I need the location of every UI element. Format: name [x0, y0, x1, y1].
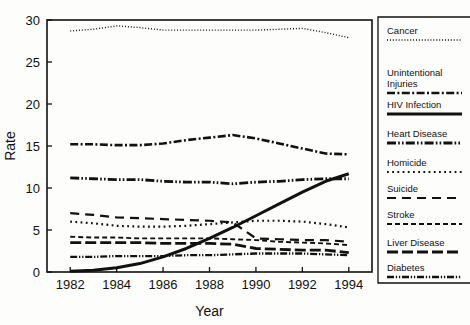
- line-chart-figure: 0510152025301982198419861988199019921994…: [0, 0, 470, 325]
- x-axis-title: Year: [195, 303, 224, 319]
- chart-legend: CancerUnintentionalInjuriesHIV Infection…: [378, 17, 470, 283]
- legend-entry-homicide[interactable]: Homicide: [387, 157, 462, 172]
- series-line-liver-disease: [70, 243, 349, 253]
- x-tick-label: 1994: [334, 277, 363, 292]
- series-line-heart-disease: [70, 178, 349, 184]
- series-line-unintentional-injuries: [70, 135, 349, 154]
- y-axis-title: Rate: [2, 131, 18, 161]
- y-tick-label: 15: [26, 139, 40, 154]
- legend-label: Liver Disease: [387, 237, 445, 248]
- plot-area: [70, 26, 349, 271]
- legend-label: Suicide: [387, 183, 418, 194]
- axes: 0510152025301982198419861988199019921994…: [2, 13, 372, 319]
- x-tick-label: 1982: [56, 277, 85, 292]
- legend-label: Cancer: [387, 25, 418, 36]
- series-line-cancer: [70, 26, 349, 38]
- legend-entry-hiv-infection[interactable]: HIV Infection: [387, 99, 462, 114]
- legend-label: Diabetes: [387, 262, 425, 273]
- legend-label: Unintentional: [387, 67, 442, 78]
- legend-label: Heart Disease: [387, 128, 447, 139]
- legend-entry-unintentional-injuries[interactable]: UnintentionalInjuries: [387, 67, 462, 93]
- series-line-diabetes: [70, 254, 349, 257]
- series-line-hiv-infection: [70, 174, 349, 271]
- legend-entry-stroke[interactable]: Stroke: [387, 209, 462, 224]
- y-tick-label: 25: [26, 55, 40, 70]
- legend-label: Homicide: [387, 157, 427, 168]
- legend-entry-diabetes[interactable]: Diabetes: [387, 262, 462, 277]
- legend-label: Stroke: [387, 209, 414, 220]
- y-tick-label: 30: [26, 13, 40, 28]
- y-tick-label: 20: [26, 97, 40, 112]
- x-tick-label: 1992: [288, 277, 317, 292]
- legend-label: HIV Infection: [387, 99, 441, 110]
- x-tick-label: 1984: [102, 277, 131, 292]
- legend-entry-liver-disease[interactable]: Liver Disease: [387, 237, 462, 252]
- plot-frame: [47, 20, 372, 272]
- y-tick-label: 10: [26, 181, 40, 196]
- legend-entry-suicide[interactable]: Suicide: [387, 183, 462, 198]
- x-tick-label: 1990: [241, 277, 270, 292]
- x-tick-label: 1986: [149, 277, 178, 292]
- legend-entry-cancer[interactable]: Cancer: [387, 25, 462, 40]
- y-tick-label: 5: [33, 223, 40, 238]
- legend-label-line2: Injuries: [387, 78, 418, 89]
- y-tick-label: 0: [33, 265, 40, 280]
- legend-entry-heart-disease[interactable]: Heart Disease: [387, 128, 462, 143]
- x-tick-label: 1988: [195, 277, 224, 292]
